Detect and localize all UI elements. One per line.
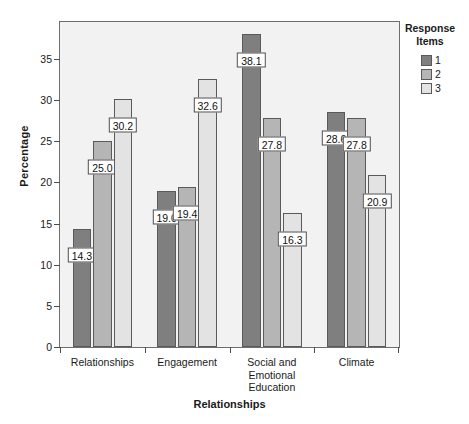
y-axis-tick: [54, 141, 60, 142]
x-axis-category-label: Climate: [339, 356, 375, 369]
y-axis-tick: [54, 224, 60, 225]
legend-item-label: 2: [435, 68, 441, 80]
legend-item[interactable]: 3: [421, 82, 469, 94]
x-axis-category-line: Emotional: [247, 369, 296, 382]
y-axis-tick-label: 20: [40, 176, 52, 188]
x-axis-tick: [398, 347, 399, 353]
x-axis-category-label: Relationships: [71, 356, 134, 369]
bar-value-label: 19.4: [173, 206, 201, 221]
y-axis-tick: [54, 182, 60, 183]
legend: ResponseItems 123: [399, 22, 469, 96]
legend-item[interactable]: 1: [421, 54, 469, 66]
legend-swatch-icon: [421, 55, 432, 66]
x-axis-category-line: Engagement: [157, 356, 217, 369]
x-axis-category-line: Education: [247, 381, 296, 394]
y-axis-tick-label: 5: [46, 300, 52, 312]
plot-area: 0510152025303514.325.030.219.019.432.638…: [59, 21, 400, 348]
x-axis-tick: [60, 347, 61, 353]
bar-value-label: 25.0: [88, 160, 116, 175]
bar: [347, 118, 366, 347]
bar-value-label: 32.6: [193, 97, 221, 112]
bar-value-label: 20.9: [363, 194, 391, 209]
bar-value-label: 38.1: [237, 52, 265, 67]
y-axis-tick: [54, 306, 60, 307]
legend-swatch-icon: [421, 83, 432, 94]
bar: [242, 34, 261, 347]
legend-title-line: Items: [399, 35, 461, 48]
bar-value-label: 16.3: [278, 231, 306, 246]
bar-value-label: 27.8: [342, 137, 370, 152]
y-axis-title: Percentage: [18, 96, 30, 216]
y-axis-tick-label: 35: [40, 53, 52, 65]
bar: [114, 99, 133, 347]
legend-item[interactable]: 2: [421, 68, 469, 80]
bar-value-label: 27.8: [258, 137, 286, 152]
x-axis-category-line: Social and: [247, 356, 296, 369]
x-axis-category-line: Relationships: [71, 356, 134, 369]
y-axis-tick: [54, 59, 60, 60]
legend-item-label: 1: [435, 54, 441, 66]
legend-item-label: 3: [435, 82, 441, 94]
y-axis-tick-label: 0: [46, 341, 52, 353]
x-axis-tick: [230, 347, 231, 353]
x-axis-category-label: Social andEmotionalEducation: [247, 356, 296, 394]
legend-title: ResponseItems: [399, 22, 461, 48]
x-axis-category-label: Engagement: [157, 356, 217, 369]
y-axis-tick-label: 30: [40, 94, 52, 106]
bar-value-label: 30.2: [109, 117, 137, 132]
y-axis-tick-label: 10: [40, 259, 52, 271]
x-axis-title: Relationships: [59, 398, 400, 410]
bar-chart: Percentage 0510152025303514.325.030.219.…: [0, 0, 469, 424]
legend-title-line: Response: [399, 22, 461, 35]
y-axis-tick-label: 25: [40, 135, 52, 147]
plot-inner: 0510152025303514.325.030.219.019.432.638…: [60, 22, 399, 347]
y-axis-tick: [54, 100, 60, 101]
x-axis-tick: [145, 347, 146, 353]
legend-items: 123: [399, 54, 469, 94]
y-axis-tick-label: 15: [40, 218, 52, 230]
x-axis-tick: [314, 347, 315, 353]
bar: [198, 79, 217, 347]
bar-value-label: 14.3: [68, 248, 96, 263]
y-axis-tick: [54, 265, 60, 266]
legend-swatch-icon: [421, 69, 432, 80]
x-axis-category-line: Climate: [339, 356, 375, 369]
